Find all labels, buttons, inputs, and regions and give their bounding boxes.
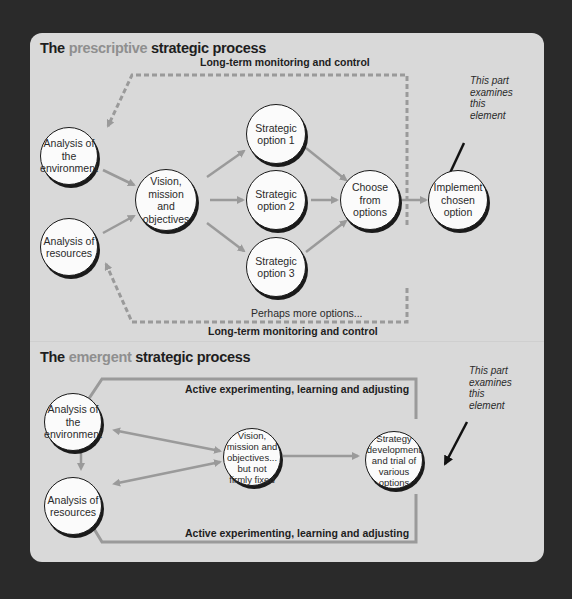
diagram-panel: The prescriptive strategic process Long-…	[30, 33, 544, 562]
emergent-note: This part examines this element	[469, 365, 512, 411]
active-label-top: Active experimenting, learning and adjus…	[185, 383, 409, 395]
emergent-title: The emergent strategic process	[40, 349, 250, 365]
node-option-3: Strategic option 3	[246, 237, 306, 297]
more-options-text: Perhaps more options...	[251, 307, 362, 319]
node-analysis-resources-emergent: Analysis of resources	[44, 477, 102, 535]
node-implement: Implement chosen option	[428, 170, 488, 230]
node-analysis-resources: Analysis of resources	[40, 218, 98, 276]
node-strategy-development: Strategy development and trial of variou…	[365, 431, 423, 489]
node-vision: Vision, mission and objectives	[135, 169, 197, 231]
node-vision-emergent: Vision, mission and objectives... but no…	[223, 428, 281, 486]
pointer-arrow-emergent	[445, 422, 467, 464]
node-option-1: Strategic option 1	[246, 104, 306, 164]
node-choose: Choose from options	[340, 170, 400, 230]
monitoring-label-bottom: Long-term monitoring and control	[208, 325, 378, 337]
prescriptive-title: The prescriptive strategic process	[40, 40, 266, 56]
node-option-2: Strategic option 2	[246, 170, 306, 230]
monitoring-label-top: Long-term monitoring and control	[200, 56, 370, 68]
node-analysis-environment: Analysis of the environment	[40, 127, 98, 185]
prescriptive-note: This part examines this element	[470, 75, 513, 121]
node-analysis-environment-emergent: Analysis of the environment	[44, 393, 102, 451]
active-label-bottom: Active experimenting, learning and adjus…	[185, 527, 409, 539]
section-divider	[30, 341, 544, 342]
